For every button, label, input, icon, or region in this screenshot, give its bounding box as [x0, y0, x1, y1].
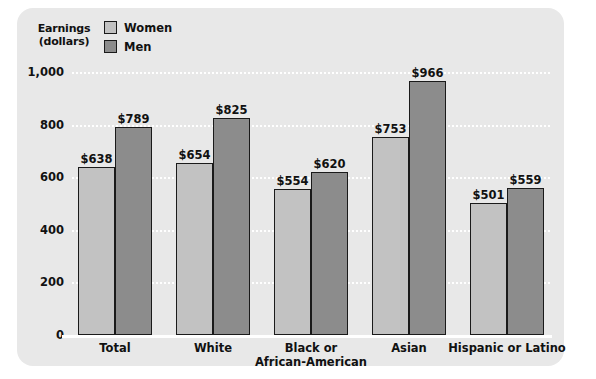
chart-page: Earnings (dollars) Women Men 1,000800600… [0, 0, 596, 379]
bar-men-0 [115, 127, 152, 335]
bar-women-3 [372, 137, 409, 335]
bar-men-2 [311, 172, 348, 335]
bar-men-3 [409, 81, 446, 335]
category-label-line: Hispanic or Latino [447, 342, 567, 356]
bar-women-4 [470, 203, 507, 335]
bars-layer: $638$789Total$654$825White$554$620Black … [0, 0, 596, 379]
bar-value-label: $559 [499, 173, 552, 187]
bar-women-2 [274, 189, 311, 335]
bar-value-label: $966 [401, 66, 454, 80]
bar-value-label: $825 [205, 103, 258, 117]
bar-men-4 [507, 188, 544, 335]
category-label-4: Hispanic or Latino [447, 342, 567, 356]
bar-women-0 [78, 167, 115, 335]
bar-women-1 [176, 163, 213, 335]
category-label-line: African-American [251, 356, 371, 370]
bar-value-label: $789 [107, 112, 160, 126]
bar-value-label: $620 [303, 157, 356, 171]
bar-men-1 [213, 118, 250, 335]
